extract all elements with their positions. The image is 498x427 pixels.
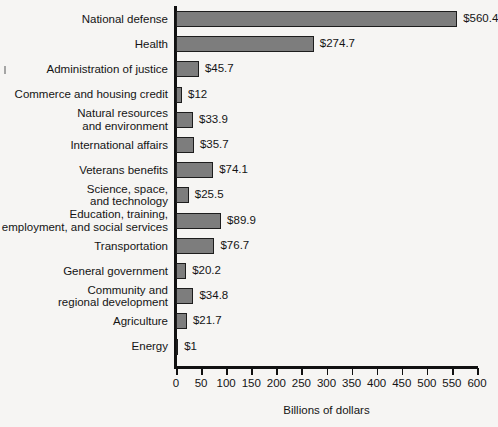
x-axis-tick-mark [427,368,429,375]
bar-value-label: $21.7 [193,312,222,329]
bar-row: $25.5 [176,184,477,209]
x-axis-tick-mark [402,368,404,375]
x-axis-tick-mark [327,368,329,375]
bar-row: $45.7 [176,58,477,83]
x-axis-tick-mark [377,368,379,375]
x-axis-title: Billions of dollars [176,404,477,416]
bar-value-label: $12 [188,86,207,103]
bar-row: $35.7 [176,134,477,159]
bar-rect [176,11,457,27]
bar-value-label: $89.9 [227,212,256,229]
x-axis-tick-mark [301,368,303,375]
category-label: Energy [0,340,168,353]
bar-row: $274.7 [176,33,477,58]
bar-value-label: $74.1 [219,161,248,178]
x-axis-tick-label: 350 [342,376,361,390]
bar-rect [176,339,178,355]
bar-row: $20.2 [176,260,477,285]
bar-rect [176,238,214,254]
bar-rect [176,313,187,329]
bar-rect [176,61,199,77]
bar-value-label: $560.4 [463,10,498,27]
bar-rect [176,187,189,203]
x-axis-tick-mark [352,368,354,375]
bar-value-label: $25.5 [195,186,224,203]
bar-value-label: $33.9 [199,111,228,128]
bar-rect [176,213,221,229]
x-axis-tick-label: 250 [292,376,311,390]
bar-row: $74.1 [176,159,477,184]
category-label: Transportation [0,240,168,253]
x-axis-tick-label: 200 [267,376,286,390]
category-label: Agriculture [0,315,168,328]
bar-value-label: $274.7 [320,35,355,52]
bar-rect [176,112,193,128]
bar-row: $33.9 [176,109,477,134]
bar-rect [176,162,213,178]
category-label: Administration of justice [0,63,168,76]
bar-rect [176,137,194,153]
bar-rect [176,36,314,52]
bar-value-label: $20.2 [192,262,221,279]
x-axis-tick-mark [276,368,278,375]
category-label: General government [0,265,168,278]
bar-row: $1 [176,336,477,361]
x-axis-tick-label: 400 [367,376,386,390]
bar-value-label: $34.8 [199,287,228,304]
x-axis-tick-label: 300 [317,376,336,390]
bar-rect [176,288,193,304]
x-axis-tick-mark [452,368,454,375]
plot-area: $560.4$274.7$45.7$12$33.9$35.7$74.1$25.5… [176,8,477,366]
category-label-column: National defenseHealthAdministration of … [0,8,172,366]
x-axis-tick-mark [251,368,253,375]
x-axis-tick-marks [176,368,477,376]
bar-rect [176,263,186,279]
category-label: International affairs [0,139,168,152]
category-label: National defense [0,13,168,26]
x-axis-tick-label: 0 [173,376,179,390]
bar-row: $34.8 [176,285,477,310]
x-axis-tick-mark [176,368,178,375]
x-axis-tick-mark [477,368,479,375]
category-label: Science, space, and technology [0,183,168,208]
category-label: Health [0,38,168,51]
bar-value-label: $76.7 [220,237,249,254]
bar-value-label: $45.7 [205,60,234,77]
category-label: Education, training, employment, and soc… [0,208,168,233]
x-axis-tick-label: 500 [417,376,436,390]
bar-row: $560.4 [176,8,477,33]
bar-rect [176,87,182,103]
x-axis-tick-mark [201,368,203,375]
bar-row: $12 [176,84,477,109]
x-axis-tick-label: 150 [242,376,261,390]
bar-value-label: $35.7 [200,136,229,153]
x-axis-tick-label: 450 [392,376,411,390]
category-label: Commerce and housing credit [0,88,168,101]
category-label: Natural resources and environment [0,107,168,132]
x-axis-tick-label: 600 [467,376,486,390]
x-axis-tick-label: 50 [195,376,208,390]
category-label: Community and regional development [0,284,168,309]
bar-row: $89.9 [176,210,477,235]
x-axis-tick-labels: 050100150200250300350400450500550600 [176,376,477,392]
bar-value-label: $1 [184,338,197,355]
bar-row: $21.7 [176,310,477,335]
category-label: Veterans benefits [0,164,168,177]
x-axis-tick-mark [226,368,228,375]
x-axis-tick-label: 550 [442,376,461,390]
bar-row: $76.7 [176,235,477,260]
x-axis-tick-label: 100 [217,376,236,390]
